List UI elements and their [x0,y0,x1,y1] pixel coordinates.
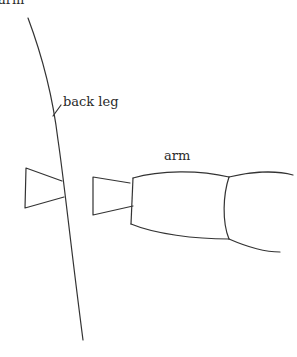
arm-upper-segment [131,178,133,224]
arm-upper-bottom-edge [131,224,229,239]
arm-triangle-shape [93,177,133,215]
back-leg-label: back leg [63,94,119,109]
back-leg-leader [53,105,61,116]
top-cropped-label: arm [0,0,24,7]
arm-upper-top-edge [133,172,229,178]
forearm-bottom-edge [229,239,280,252]
diagram-canvas: arm back leg arm [0,0,297,357]
elbow-joint-line [224,177,229,239]
left-triangle-shape [25,168,64,208]
arm-label: arm [164,148,190,163]
forearm-top-edge [229,172,293,177]
